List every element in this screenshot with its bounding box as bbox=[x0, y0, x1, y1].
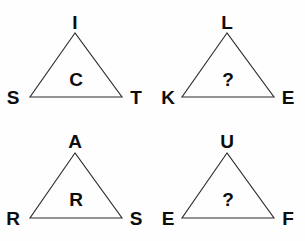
triangle-3-left-label: R bbox=[0, 209, 26, 228]
triangle-1-right-label: T bbox=[123, 88, 149, 107]
triangle-3-apex-label: A bbox=[62, 132, 88, 151]
triangle-4-right-label: F bbox=[275, 209, 301, 228]
triangle-1-left-label: S bbox=[0, 88, 26, 107]
triangle-3-right-label: S bbox=[123, 209, 149, 228]
triangle-4-apex-label: U bbox=[214, 132, 240, 151]
triangle-2-center-question-mark: ? bbox=[215, 70, 241, 89]
triangle-2-right-label: E bbox=[275, 88, 301, 107]
puzzle-canvas: I S T C L K E ? A R S R U E F ? bbox=[0, 0, 305, 241]
triangle-4-left-label: E bbox=[155, 209, 181, 228]
triangle-2-apex-label: L bbox=[214, 13, 240, 32]
triangle-outlines-layer bbox=[0, 0, 305, 241]
triangle-1-apex-label: I bbox=[62, 13, 88, 32]
triangle-1-center-label: C bbox=[63, 70, 89, 89]
triangle-3-center-label: R bbox=[63, 190, 89, 209]
triangle-2-left-label: K bbox=[155, 88, 181, 107]
triangle-4-center-question-mark: ? bbox=[215, 190, 241, 209]
